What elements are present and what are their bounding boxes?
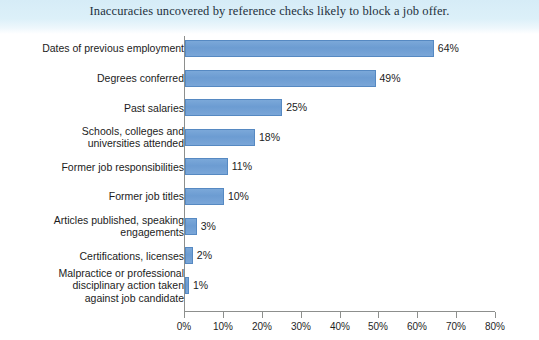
category-label: Dates of previous employment bbox=[0, 42, 184, 55]
x-tick bbox=[301, 312, 302, 318]
x-tick bbox=[340, 312, 341, 318]
x-tick bbox=[456, 312, 457, 318]
x-tick-label: 20% bbox=[252, 321, 272, 332]
bar bbox=[185, 158, 228, 175]
bar-value-label: 25% bbox=[286, 99, 307, 116]
bar-value-label: 10% bbox=[228, 188, 249, 205]
bar-value-label: 1% bbox=[193, 277, 208, 294]
category-label: Past salaries bbox=[0, 102, 184, 115]
x-tick bbox=[262, 312, 263, 318]
x-tick-label: 50% bbox=[368, 321, 388, 332]
chart-page: Inaccuracies uncovered by reference chec… bbox=[0, 0, 539, 340]
bar bbox=[185, 218, 197, 235]
bar bbox=[185, 247, 193, 264]
bar bbox=[185, 70, 376, 87]
plot-area: 0%10%20%30%40%50%60%70%80% 64%49%25%18%1… bbox=[0, 34, 539, 340]
x-tick bbox=[495, 312, 496, 318]
category-label: Degrees conferred bbox=[0, 72, 184, 85]
bar-value-label: 18% bbox=[259, 129, 280, 146]
category-label: Schools, colleges and universities atten… bbox=[0, 125, 184, 150]
category-label: Articles published, speaking engagements bbox=[0, 214, 184, 239]
x-tick-label: 10% bbox=[213, 321, 233, 332]
category-label: Former job titles bbox=[0, 190, 184, 203]
bar bbox=[185, 129, 255, 146]
bar-value-label: 49% bbox=[380, 70, 401, 87]
bar-value-label: 3% bbox=[201, 218, 216, 235]
category-label: Certifications, licenses bbox=[0, 250, 184, 263]
bar-value-label: 64% bbox=[438, 40, 459, 57]
x-tick-label: 0% bbox=[177, 321, 191, 332]
category-label: Former job responsibilities bbox=[0, 161, 184, 174]
x-tick-label: 80% bbox=[485, 321, 505, 332]
bar bbox=[185, 188, 224, 205]
bar bbox=[185, 277, 189, 294]
bar-value-label: 2% bbox=[197, 247, 212, 264]
bar bbox=[185, 40, 434, 57]
x-tick bbox=[223, 312, 224, 318]
x-tick-label: 40% bbox=[330, 321, 350, 332]
bar bbox=[185, 99, 282, 116]
x-tick-label: 70% bbox=[446, 321, 466, 332]
x-tick-label: 30% bbox=[291, 321, 311, 332]
bar-value-label: 11% bbox=[232, 158, 252, 175]
category-label: Malpractice or professional disciplinary… bbox=[0, 267, 184, 305]
chart-title: Inaccuracies uncovered by reference chec… bbox=[0, 4, 539, 19]
x-tick bbox=[184, 312, 185, 318]
x-tick bbox=[417, 312, 418, 318]
x-tick bbox=[378, 312, 379, 318]
x-tick-label: 60% bbox=[407, 321, 427, 332]
